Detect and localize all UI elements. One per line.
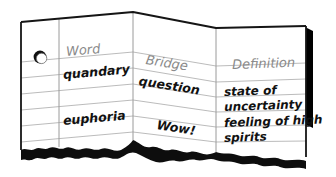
entry-definition-1-line1: state of — [224, 83, 277, 99]
entry-definition-1-line2: uncertainty — [224, 97, 303, 114]
vocabulary-foldable-image: Word quandary euphoria Bridge question W… — [0, 0, 336, 177]
panel-left — [21, 12, 133, 150]
header-definition: Definition — [232, 55, 296, 72]
header-word: Word — [65, 41, 101, 59]
entry-definition-2-line2: spirits — [224, 130, 267, 145]
